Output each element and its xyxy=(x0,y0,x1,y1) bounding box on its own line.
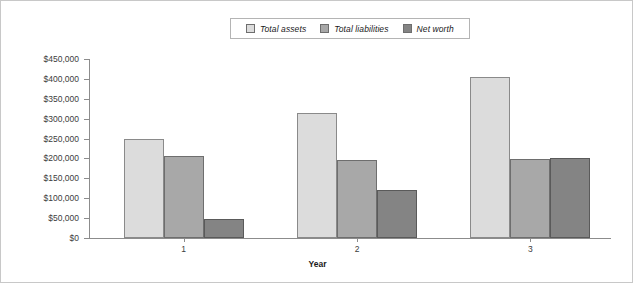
legend-item-net-worth: Net worth xyxy=(403,24,454,34)
y-axis-tick xyxy=(84,59,89,60)
y-axis-tick xyxy=(84,198,89,199)
legend-swatch-total-liabilities xyxy=(320,24,329,33)
x-axis-title: Year xyxy=(1,259,633,269)
y-axis-tick-label: $150,000 xyxy=(44,173,79,183)
bar-total-assets-year-2 xyxy=(297,113,337,238)
legend-item-total-assets: Total assets xyxy=(246,24,306,34)
y-axis-tick xyxy=(84,218,89,219)
bar-total-assets-year-1 xyxy=(124,139,164,238)
x-axis-line xyxy=(89,238,611,239)
x-axis-tick xyxy=(530,238,531,242)
y-axis-tick xyxy=(84,99,89,100)
legend-label-total-assets: Total assets xyxy=(260,24,306,34)
legend-swatch-total-assets xyxy=(246,24,255,33)
y-axis-tick xyxy=(84,238,89,239)
y-axis-tick-label: $200,000 xyxy=(44,153,79,163)
legend-label-net-worth: Net worth xyxy=(417,24,454,34)
bar-total-liabilities-year-2 xyxy=(337,160,377,238)
y-axis-tick-label: $250,000 xyxy=(44,134,79,144)
y-axis-tick-label: $300,000 xyxy=(44,114,79,124)
y-axis-tick xyxy=(84,178,89,179)
bar-chart-figure: Total assets Total liabilities Net worth… xyxy=(0,0,633,283)
y-axis-tick xyxy=(84,139,89,140)
y-axis-tick-label: $400,000 xyxy=(44,74,79,84)
plot-area xyxy=(89,59,609,238)
chart-legend: Total assets Total liabilities Net worth xyxy=(230,18,470,39)
x-axis-category-label: 3 xyxy=(528,244,533,254)
legend-item-total-liabilities: Total liabilities xyxy=(320,24,388,34)
y-axis-tick-label: $100,000 xyxy=(44,193,79,203)
legend-swatch-net-worth xyxy=(403,24,412,33)
x-axis-category-label: 2 xyxy=(355,244,360,254)
legend-label-total-liabilities: Total liabilities xyxy=(334,24,388,34)
y-axis-tick xyxy=(84,79,89,80)
y-axis-tick xyxy=(84,119,89,120)
x-axis-tick xyxy=(357,238,358,242)
bar-net-worth-year-3 xyxy=(550,158,590,238)
bar-total-liabilities-year-1 xyxy=(164,156,204,238)
y-axis-tick-label: $450,000 xyxy=(44,54,79,64)
x-axis-tick xyxy=(184,238,185,242)
bar-total-liabilities-year-3 xyxy=(510,159,550,238)
y-axis-tick xyxy=(84,158,89,159)
y-axis-tick-label: $350,000 xyxy=(44,94,79,104)
x-axis-category-label: 1 xyxy=(181,244,186,254)
y-axis-tick-label: $50,000 xyxy=(48,213,79,223)
bar-net-worth-year-2 xyxy=(377,190,417,238)
y-axis-tick-label: $0 xyxy=(70,233,79,243)
bar-total-assets-year-3 xyxy=(470,77,510,238)
bar-net-worth-year-1 xyxy=(204,219,244,238)
